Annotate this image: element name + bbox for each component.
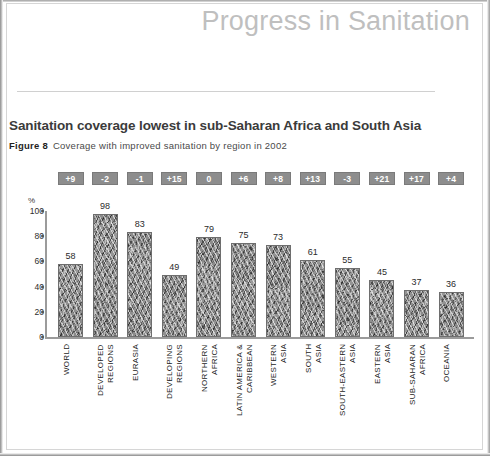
change-badge: -2 [92,172,118,185]
x-axis-category-label: OCEANIA [442,344,452,442]
y-axis-tick-mark [41,210,44,213]
bar [266,245,291,337]
bar-value-label: 49 [156,262,193,272]
x-axis-category-label: SUB-SAHARAN AFRICA [408,344,427,442]
bar-value-label: 75 [225,230,262,240]
bar-value-label: 36 [433,279,470,289]
change-badge: +9 [58,172,84,185]
change-badge: +8 [265,172,291,185]
bar-value-label: 98 [87,201,124,211]
x-axis-category-label: SOUTH ASIA [304,344,323,442]
change-badge: 0 [196,172,222,185]
x-axis-category-label: WORLD [62,344,72,442]
x-axis-category-label: SOUTH-EASTERN ASIA [338,344,357,442]
bar [127,232,152,337]
change-badge: +4 [438,172,464,185]
y-axis-tick-mark [41,285,44,288]
bar-value-label: 45 [363,267,400,277]
bar [231,243,256,338]
bar [162,275,187,337]
scanned-page: Progress in Sanitation Sanitation covera… [0,0,490,456]
bar-value-label: 79 [190,224,227,234]
y-axis-unit-label: % [28,196,35,205]
bar [439,292,464,337]
bar [369,280,394,337]
bar-value-label: 37 [398,277,435,287]
bar [196,237,221,337]
y-axis-line [45,211,47,339]
y-axis-tick-label: 100 [14,206,44,216]
y-axis-tick-mark [41,235,44,238]
bar-value-label: 83 [121,219,158,229]
x-axis-category-label: DEVELOPED REGIONS [96,344,115,442]
change-badge: +15 [161,172,187,185]
x-axis-category-label: DEVELOPING REGIONS [165,344,184,442]
bar-value-label: 73 [260,232,297,242]
change-badge: -3 [334,172,360,185]
y-axis-tick-mark [41,310,44,313]
change-badge: +6 [231,172,257,185]
y-axis-tick-mark [41,336,44,339]
y-axis-tick-label: 80 [14,231,44,241]
change-badge: +21 [369,172,395,185]
x-axis-line [45,337,474,339]
bar-value-label: 61 [294,247,331,257]
y-axis-tick-label: 20 [14,307,44,317]
bar-value-label: 58 [52,251,89,261]
x-axis-category-label: WESTERN ASIA [269,344,288,442]
y-axis-tick-label: 40 [14,282,44,292]
y-axis-tick-label: 0 [14,332,44,342]
change-badge: +13 [300,172,326,185]
bar [300,260,325,337]
x-axis-category-label: LATIN AMERICA & CARIBBEAN [235,344,254,442]
x-axis-category-label: NORTHERN AFRICA [200,344,219,442]
bar-chart: % 100806040200 +9-2-1+150+6+8+13-3+21+17… [0,0,490,456]
y-axis-tick-mark [41,260,44,263]
change-badge: -1 [127,172,153,185]
bar [58,264,83,337]
y-axis-tick-label: 60 [14,256,44,266]
x-axis-category-label: EURASIA [131,344,141,442]
bar [404,290,429,337]
bar [93,214,118,337]
bar-value-label: 55 [329,255,366,265]
change-badge: +17 [404,172,430,185]
x-axis-category-label: EASTERN ASIA [373,344,392,442]
bar [335,268,360,337]
